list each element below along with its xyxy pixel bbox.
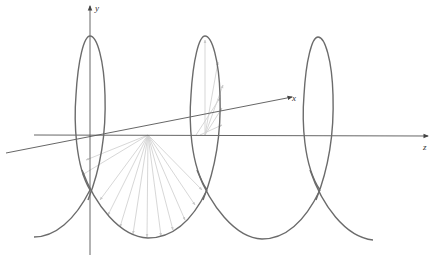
x-axis-label: x xyxy=(291,93,296,103)
z-axis-label: z xyxy=(422,142,427,152)
helix-diagram: y x z xyxy=(0,0,434,257)
y-axis-label: y xyxy=(94,3,99,13)
